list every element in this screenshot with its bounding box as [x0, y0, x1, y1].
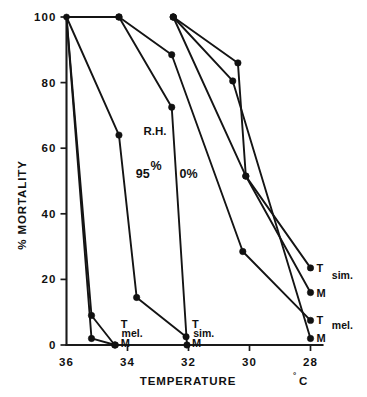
axis-m-mel: M	[121, 337, 130, 349]
x-axis-title: TEMPERATURE	[140, 375, 237, 387]
data-marker	[169, 52, 175, 58]
sim-right-label: sim.	[332, 269, 353, 281]
y-axis-tick-label: 60	[42, 142, 57, 154]
x-axis-unit-c: C	[299, 375, 308, 387]
x-axis-tick-label: 34	[120, 356, 135, 368]
data-marker	[170, 14, 176, 20]
data-marker	[183, 334, 189, 340]
chart-figure: 020406080100 3634323028 R.H.95%0%mel.sim…	[0, 0, 367, 397]
data-marker	[112, 342, 118, 348]
data-marker	[240, 248, 246, 254]
data-marker	[88, 335, 94, 341]
y-axis-tick-label: 100	[34, 11, 57, 23]
x-axis-tick-label: 36	[59, 356, 74, 368]
data-marker	[116, 14, 122, 20]
rh-0-label: 0%	[179, 167, 197, 181]
data-marker	[307, 317, 313, 323]
rh-95-pct: %	[150, 159, 161, 173]
mortality-temperature-chart: 020406080100 3634323028 R.H.95%0%mel.sim…	[0, 0, 367, 397]
data-marker	[307, 265, 313, 271]
rh-95-label: 95	[136, 167, 150, 181]
endpoint-t-sim: T	[317, 262, 324, 274]
y-axis-title: % MORTALITY	[16, 160, 28, 250]
endpoint-m-sim: M	[317, 287, 326, 299]
y-axis-tick-label: 0	[49, 339, 57, 351]
data-marker	[133, 294, 139, 300]
data-marker	[64, 14, 70, 20]
axis-t-sim: T	[192, 318, 199, 330]
rh-label: R.H.	[143, 125, 166, 137]
y-axis-tick-label: 80	[42, 77, 57, 89]
endpoint-m-mel: M	[317, 332, 326, 344]
data-marker	[235, 60, 241, 66]
data-marker	[116, 132, 122, 138]
y-axis-tick-label: 20	[42, 273, 57, 285]
data-marker	[184, 342, 190, 348]
mel-right-label: mel.	[332, 319, 353, 331]
data-marker	[307, 289, 313, 295]
x-axis-tick-label: 28	[303, 356, 318, 368]
x-axis-tick-label: 32	[181, 356, 196, 368]
x-axis-tick-label: 30	[242, 356, 257, 368]
data-marker	[88, 312, 94, 318]
endpoint-t-mel: T	[317, 314, 324, 326]
data-marker	[230, 78, 236, 84]
axis-t-mel: T	[121, 318, 128, 330]
y-axis-tick-label: 40	[42, 208, 57, 220]
x-axis-unit-degree: °	[293, 371, 296, 380]
data-marker	[307, 335, 313, 341]
data-marker	[243, 173, 249, 179]
data-marker	[169, 104, 175, 110]
axis-m-sim: M	[192, 337, 201, 349]
